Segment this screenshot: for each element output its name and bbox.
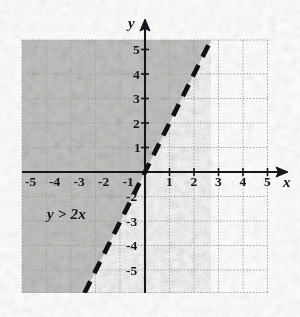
x-tick-label-1: 1 bbox=[166, 175, 173, 189]
shaded-region bbox=[22, 40, 211, 293]
y-tick-label-neg2: -2 bbox=[126, 190, 137, 204]
x-tick-label-2: 2 bbox=[191, 175, 198, 189]
coordinate-plane-graph bbox=[0, 0, 300, 317]
x-tick-label-neg5: -5 bbox=[25, 175, 36, 189]
y-tick-label-neg4: -4 bbox=[126, 239, 137, 253]
x-tick-label-5: 5 bbox=[264, 175, 271, 189]
inequality-annotation: y > 2x bbox=[47, 207, 86, 222]
x-axis-label: x bbox=[283, 175, 291, 190]
x-tick-label-neg2: -2 bbox=[98, 175, 109, 189]
x-tick-label-4: 4 bbox=[240, 175, 247, 189]
y-tick-label-4: 4 bbox=[133, 68, 140, 82]
y-tick-label-neg5: -5 bbox=[126, 264, 137, 278]
y-tick-label-1: 1 bbox=[134, 141, 141, 155]
figure-container: y x -5 -4 -3 -2 -1 1 2 3 4 5 5 4 3 2 1 -… bbox=[0, 0, 300, 317]
y-axis-label: y bbox=[128, 16, 135, 31]
x-tick-label-neg1: -1 bbox=[123, 175, 134, 189]
y-tick-label-2: 2 bbox=[133, 117, 140, 131]
y-tick-label-3: 3 bbox=[133, 92, 140, 106]
y-tick-label-5: 5 bbox=[133, 43, 140, 57]
x-tick-label-neg3: -3 bbox=[74, 175, 85, 189]
y-tick-label-neg3: -3 bbox=[126, 215, 137, 229]
x-tick-label-neg4: -4 bbox=[49, 175, 60, 189]
x-tick-label-3: 3 bbox=[215, 175, 222, 189]
